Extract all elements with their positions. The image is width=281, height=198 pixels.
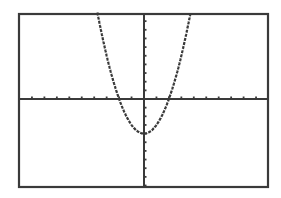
- function-plot: [0, 0, 281, 198]
- graph-screen: [0, 0, 281, 198]
